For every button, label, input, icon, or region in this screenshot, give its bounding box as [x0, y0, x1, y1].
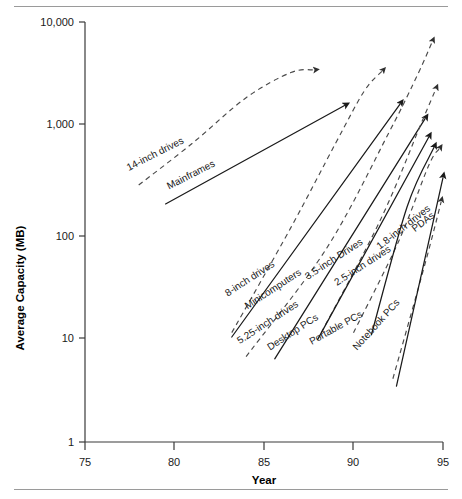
series-line-14-inch-drives — [139, 70, 314, 185]
y-axis-ticks — [79, 22, 85, 442]
series-line-mainframes — [166, 106, 345, 204]
x-axis-title: Year — [252, 474, 277, 486]
y-tick-label-1000: 1,000 — [46, 118, 74, 130]
y-axis: 10,000 1,000 100 10 1 Average Capacity (… — [14, 16, 85, 448]
series-label-mainframes: Mainframes — [165, 158, 217, 192]
y-axis-title: Average Capacity (MB) — [14, 225, 26, 350]
y-tick-label-1: 1 — [68, 436, 74, 448]
series-label-layer: 14-inch drivesMainframes8-inch drivesMin… — [125, 135, 437, 353]
series-label-14-inch-drives: 14-inch drives — [125, 135, 185, 173]
y-tick-label-10: 10 — [62, 332, 74, 344]
x-tick-label-80: 80 — [168, 456, 180, 468]
x-tick-label-90: 90 — [347, 456, 359, 468]
figure-container: 10,000 1,000 100 10 1 Average Capacity (… — [0, 0, 462, 499]
x-axis-ticks — [85, 442, 443, 450]
x-tick-label-95: 95 — [437, 456, 449, 468]
capacity-vs-year-chart: 10,000 1,000 100 10 1 Average Capacity (… — [0, 0, 462, 499]
series-line-5-25-inch-drives — [246, 42, 432, 357]
y-tick-label-10000: 10,000 — [40, 16, 74, 28]
y-tick-label-100: 100 — [56, 230, 74, 242]
x-axis: 75 80 85 90 95 Year — [79, 442, 449, 486]
x-tick-label-75: 75 — [79, 456, 91, 468]
x-tick-label-85: 85 — [258, 456, 270, 468]
